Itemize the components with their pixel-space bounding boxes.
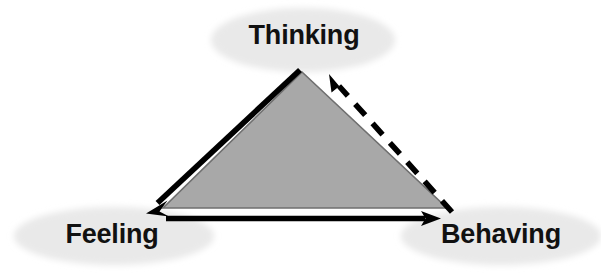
- cognitive-triangle-diagram: Thinking Feeling Behaving: [0, 0, 601, 279]
- feeling-to-behaving-arrow: [166, 211, 441, 226]
- behaving-label: Behaving: [441, 219, 561, 249]
- central-triangle: [163, 72, 447, 208]
- thinking-label: Thinking: [249, 20, 360, 50]
- feeling-label: Feeling: [65, 219, 158, 249]
- diagram-canvas: Thinking Feeling Behaving: [0, 0, 601, 279]
